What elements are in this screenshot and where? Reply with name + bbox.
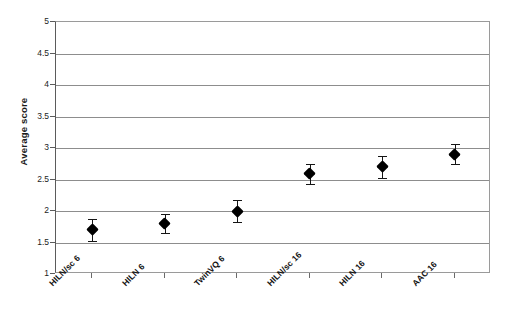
diamond-marker: [303, 167, 316, 180]
error-bar-cap-upper: [88, 219, 97, 220]
error-bar-cap-upper: [233, 200, 242, 201]
x-axis-tick-mark: [309, 273, 310, 278]
y-axis-tick-label: 1: [9, 268, 49, 278]
y-axis-tick-label: 4: [9, 79, 49, 89]
y-axis-tick-label: 2.5: [9, 174, 49, 184]
y-axis-tick-label: 1.5: [9, 237, 49, 247]
error-bar-cap-lower: [88, 241, 97, 242]
x-axis-tick-mark: [164, 273, 165, 278]
error-bar-cap-upper: [306, 164, 315, 165]
x-axis-tick-mark: [236, 273, 237, 278]
diamond-marker: [86, 224, 99, 237]
error-bar-cap-lower: [233, 222, 242, 223]
diamond-marker: [448, 148, 461, 161]
x-axis-tick-mark: [454, 273, 455, 278]
gridline: [56, 180, 489, 181]
diamond-marker: [158, 217, 171, 230]
plot-area: [55, 21, 490, 273]
y-axis-tick-label: 4.5: [9, 48, 49, 58]
chart-container: Average score 11.522.533.544.55 HILN/sc …: [0, 0, 510, 322]
error-bar-cap-upper: [451, 144, 460, 145]
gridline: [56, 243, 489, 244]
y-axis-tick-label: 3.5: [9, 111, 49, 121]
gridline: [56, 117, 489, 118]
error-bar-cap-lower: [306, 184, 315, 185]
diamond-marker: [231, 205, 244, 218]
error-bar-cap-lower: [451, 164, 460, 165]
y-axis-tick-label: 3: [9, 142, 49, 152]
gridline: [56, 148, 489, 149]
y-axis-tick-label: 2: [9, 205, 49, 215]
y-axis-tick-label: 5: [9, 16, 49, 26]
gridline: [56, 85, 489, 86]
error-bar-cap-upper: [161, 214, 170, 215]
error-bar-cap-lower: [161, 233, 170, 234]
gridline: [56, 54, 489, 55]
x-axis-tick-mark: [381, 273, 382, 278]
x-axis-tick-mark: [91, 273, 92, 278]
gridline: [56, 211, 489, 212]
error-bar-cap-lower: [378, 178, 387, 179]
diamond-marker: [376, 161, 389, 174]
error-bar-cap-upper: [378, 156, 387, 157]
